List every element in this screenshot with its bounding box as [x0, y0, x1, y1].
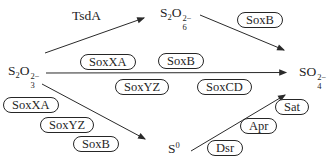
enzyme-pill-apr: Apr	[240, 118, 277, 134]
s2o3-subscript-3: 3	[31, 81, 35, 90]
sulfur-oxidation-pathway-diagram: S2O2−3 S2O2−6 SO2−4 S0 TsdA SoxB SoxXA S…	[0, 0, 335, 160]
arrow-s2o3-to-so4	[46, 73, 286, 74]
s0-symbol-s: S	[168, 141, 176, 156]
node-s0: S0	[168, 141, 180, 156]
so4-subscript-4: 4	[317, 82, 321, 91]
s2o6-symbol-o: O	[172, 5, 182, 20]
enzyme-pill-soxxa-above: SoxXA	[80, 54, 136, 70]
s2o3-symbol-o: O	[20, 63, 30, 78]
s2o6-symbol-s: S	[160, 5, 168, 20]
node-s2o6: S2O2−6	[160, 6, 192, 31]
enzyme-pill-soxb-lower: SoxB	[73, 136, 119, 152]
s2o3-charge-stack: 2−3	[31, 72, 40, 89]
node-so4: SO2−4	[299, 65, 326, 90]
enzyme-pill-soxb-upper: SoxB	[237, 12, 283, 28]
s0-superscript-0: 0	[176, 140, 180, 150]
node-s2o3: S2O2−3	[8, 64, 40, 89]
enzyme-pill-sat: Sat	[275, 99, 309, 115]
s2o6-charge-stack: 2−6	[183, 14, 192, 31]
so4-charge-stack: 2−4	[317, 73, 326, 90]
enzyme-pill-soxyz-lower: SoxYZ	[40, 117, 94, 133]
enzyme-pill-soxyz-below: SoxYZ	[115, 79, 169, 95]
s2o3-symbol-s: S	[8, 63, 16, 78]
s2o6-subscript-6: 6	[183, 23, 187, 32]
enzyme-pill-soxxa-lower: SoxXA	[3, 97, 59, 113]
enzyme-pill-soxcd-below: SoxCD	[197, 79, 252, 95]
enzyme-label-tsda: TsdA	[72, 8, 101, 24]
enzyme-pill-soxb-above: SoxB	[158, 53, 204, 69]
so4-symbols: SO	[299, 64, 316, 79]
enzyme-pill-dsr: Dsr	[207, 140, 243, 156]
